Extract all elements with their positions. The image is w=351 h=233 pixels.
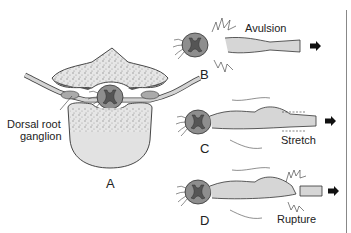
figure-artwork bbox=[0, 0, 351, 233]
annotation-rupture: Rupture bbox=[277, 213, 316, 225]
panel-a-vertebra bbox=[25, 48, 200, 168]
annotation-avulsion: Avulsion bbox=[245, 22, 286, 34]
callout-dorsal-root-ganglion-line1: Dorsal root bbox=[7, 118, 61, 130]
panel-d-rupture bbox=[176, 168, 339, 219]
callout-dorsal-root-ganglion-line2: ganglion bbox=[20, 130, 62, 142]
annotation-stretch: Stretch bbox=[281, 134, 316, 146]
panel-label-b: B bbox=[200, 69, 209, 81]
panel-divider bbox=[346, 10, 347, 233]
panel-label-a: A bbox=[106, 178, 115, 190]
panel-label-d: D bbox=[200, 215, 209, 227]
nerve-injury-figure: Dorsal root ganglion A B C D Avulsion St… bbox=[0, 0, 351, 233]
panel-label-c: C bbox=[200, 143, 209, 155]
